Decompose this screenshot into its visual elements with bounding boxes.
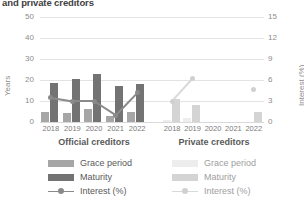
- swatch-icon: [172, 160, 198, 167]
- bar-grace-period: [183, 118, 191, 122]
- legend-item-private-maturity[interactable]: Maturity: [172, 170, 256, 184]
- legend-label: Maturity: [204, 172, 236, 182]
- bar-maturity: [93, 74, 101, 122]
- panel-label-private: Private creditors: [158, 137, 270, 147]
- right-axis-title: Interest (%): [297, 65, 304, 106]
- interest-line-segment: [72, 100, 94, 102]
- legend-item-official-maturity[interactable]: Maturity: [48, 170, 132, 184]
- bar-maturity: [50, 83, 58, 122]
- right-tick-label: 3: [268, 97, 290, 105]
- x-tick-label: 2019: [182, 124, 204, 134]
- bar-group: [182, 17, 202, 122]
- line-marker-icon: [172, 188, 198, 195]
- bar-maturity: [192, 105, 200, 122]
- bar-maturity: [254, 112, 262, 123]
- right-tick-label: 6: [268, 76, 290, 84]
- x-tick-label: 2022: [243, 124, 265, 134]
- left-tick-label: 30: [12, 55, 34, 63]
- legend-label: Grace period: [204, 158, 256, 168]
- bar-group: [126, 17, 148, 122]
- right-tick-label: 9: [268, 55, 290, 63]
- x-axis-labels-official: 20182019202020212022: [40, 124, 148, 136]
- interest-data-point: [135, 90, 140, 95]
- x-tick-label: 2021: [105, 124, 127, 134]
- x-tick-label: 2020: [202, 124, 224, 134]
- right-tick-label: 12: [268, 34, 290, 42]
- panel-label-official: Official creditors: [32, 137, 156, 147]
- left-axis-title: Years: [3, 76, 12, 96]
- x-tick-label: 2022: [126, 124, 148, 134]
- x-tick-label: 2018: [40, 124, 62, 134]
- swatch-icon: [48, 160, 74, 167]
- swatch-icon: [172, 174, 198, 181]
- legend-item-official-grace[interactable]: Grace period: [48, 156, 132, 170]
- gridline: [40, 122, 264, 123]
- left-tick-label: 0: [12, 118, 34, 126]
- legend-label: Maturity: [80, 172, 112, 182]
- bar-group: [62, 17, 84, 122]
- interest-data-point: [170, 99, 175, 104]
- legend-item-private-interest[interactable]: Interest (%): [172, 184, 256, 198]
- legend-item-official-interest[interactable]: Interest (%): [48, 184, 132, 198]
- interest-data-point: [70, 99, 75, 104]
- bar-grace-period: [127, 112, 135, 123]
- line-marker-icon: [48, 188, 74, 195]
- left-tick-label: 40: [12, 34, 34, 42]
- x-tick-label: 2019: [61, 124, 83, 134]
- right-tick-label: 15: [268, 13, 290, 21]
- legend-label: Grace period: [80, 158, 132, 168]
- chart-root: and private creditors Years Interest (%)…: [0, 0, 304, 202]
- interest-data-point: [251, 87, 256, 92]
- swatch-icon: [48, 174, 74, 181]
- x-tick-label: 2021: [222, 124, 244, 134]
- left-tick-label: 10: [12, 97, 34, 105]
- left-tick-label: 50: [12, 13, 34, 21]
- bar-group: [223, 17, 243, 122]
- legend-private: Grace period Maturity Interest (%): [172, 156, 256, 198]
- panel-official-creditors: [40, 17, 148, 122]
- legend-label: Interest (%): [80, 186, 127, 196]
- legend-official: Grace period Maturity Interest (%): [48, 156, 132, 198]
- legend-item-private-grace[interactable]: Grace period: [172, 156, 256, 170]
- left-tick-label: 20: [12, 76, 34, 84]
- x-tick-label: 2020: [83, 124, 105, 134]
- interest-data-point: [92, 99, 97, 104]
- bar-grace-period: [41, 112, 49, 123]
- bar-group: [40, 17, 62, 122]
- interest-data-point: [113, 113, 118, 118]
- x-axis-labels-private: 20182019202020212022: [162, 124, 264, 136]
- bar-group: [203, 17, 223, 122]
- x-tick-label: 2018: [161, 124, 183, 134]
- bar-grace-period: [84, 109, 92, 122]
- bar-group: [162, 17, 182, 122]
- bar-grace-period: [163, 120, 171, 122]
- bar-group: [244, 17, 264, 122]
- legend-label: Interest (%): [204, 186, 251, 196]
- panel-private-creditors: [162, 17, 264, 122]
- chart-title: and private creditors: [2, 0, 94, 8]
- plot-area: [40, 17, 264, 122]
- right-tick-label: 0: [268, 118, 290, 126]
- bar-grace-period: [63, 113, 71, 122]
